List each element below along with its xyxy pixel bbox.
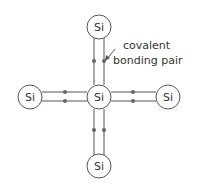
atom-center: Si [87,85,111,109]
atom-right: Si [156,85,180,109]
atom-top: Si [87,15,111,39]
annotation-line1: covalent [123,39,171,52]
annotation: covalent bonding pair [105,39,183,67]
atom-left: Si [18,85,42,109]
atom-label: Si [94,21,104,34]
annotation-line2: bonding pair [113,54,183,67]
atom-label: Si [94,91,104,104]
atom-bottom: Si [87,154,111,178]
atom-label: Si [25,91,35,104]
silicon-bonding-diagram: Si Si Si Si Si covalent bonding pair [0,0,203,187]
atom-label: Si [94,160,104,173]
atom-label: Si [163,91,173,104]
